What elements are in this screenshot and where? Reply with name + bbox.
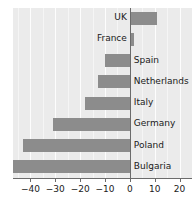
- tick-mark: [30, 178, 31, 182]
- bar-row: Bulgaria: [13, 157, 192, 178]
- bar-row: Netherlands: [13, 72, 192, 93]
- bar-category-label: France: [97, 31, 127, 46]
- bar-row: UK: [13, 8, 192, 29]
- tick-mark: [105, 178, 106, 182]
- x-axis-line: [13, 178, 192, 179]
- bar-row: France: [13, 29, 192, 50]
- bar: [98, 75, 130, 88]
- bar: [85, 97, 130, 110]
- bar-category-label: Bulgaria: [134, 159, 171, 174]
- bar-row: Italy: [13, 93, 192, 114]
- tick-mark: [55, 178, 56, 182]
- bar: [105, 54, 130, 67]
- bar-category-label: Spain: [134, 53, 159, 68]
- bar-category-label: Italy: [134, 95, 154, 110]
- bar: [53, 118, 130, 131]
- tick-mark: [80, 178, 81, 182]
- bar: [13, 160, 130, 173]
- bar-category-label: Poland: [134, 138, 164, 153]
- bar-row: Poland: [13, 136, 192, 157]
- bar: [130, 12, 157, 25]
- tick-label: 20: [163, 184, 195, 194]
- bar-category-label: Netherlands: [134, 74, 189, 89]
- bar-chart: UKFranceSpainNetherlandsItalyGermanyPola…: [0, 0, 195, 207]
- bar-row: Spain: [13, 51, 192, 72]
- bar-category-label: Germany: [134, 116, 175, 131]
- tick-mark: [155, 178, 156, 182]
- tick-mark: [130, 178, 131, 182]
- bar-row: Germany: [13, 114, 192, 135]
- tick-mark: [180, 178, 181, 182]
- zero-axis-line: [130, 8, 131, 178]
- bar: [23, 139, 130, 152]
- bar-category-label: UK: [114, 10, 127, 25]
- plot-area: UKFranceSpainNetherlandsItalyGermanyPola…: [13, 8, 192, 178]
